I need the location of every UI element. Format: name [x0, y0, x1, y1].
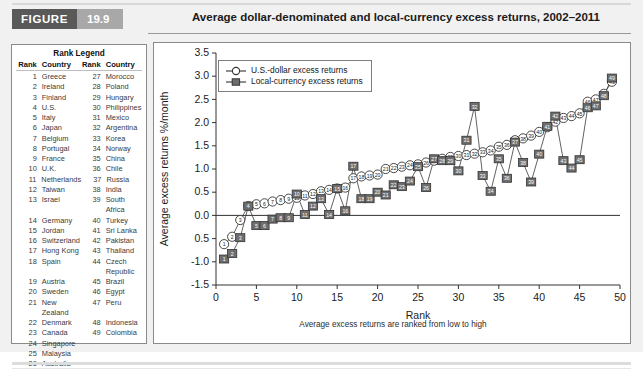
data-marker-rank-label: 34 [488, 148, 494, 154]
cell-rank2: 39 [80, 195, 101, 216]
x-tick-label: 25 [412, 291, 424, 303]
cell-country: Israel [37, 195, 80, 216]
chart-footnote: Average excess returns are ranked from l… [154, 320, 632, 329]
cell-rank: 16 [16, 236, 37, 246]
data-marker-rank-label: 13 [318, 188, 324, 194]
cell-country2: Argentina [101, 123, 142, 133]
cell-country2: Morocco [101, 72, 142, 82]
data-marker-rank-label: 3 [239, 235, 242, 241]
data-marker-rank-label: 44 [569, 165, 575, 171]
y-axis-title: Average excess returns %/month [158, 92, 170, 247]
data-marker-rank-label: 9 [287, 196, 290, 202]
data-marker-rank-label: 7 [271, 216, 274, 222]
cell-rank2: 44 [80, 257, 101, 278]
data-marker-rank-label: 34 [488, 188, 494, 194]
cell-country2: Egypt [101, 287, 142, 297]
data-marker-rank-label: 12 [310, 191, 316, 197]
cell-rank: 18 [16, 257, 37, 278]
cell-country2: Sri Lanka [101, 226, 142, 236]
rank-legend-row: 16Switzerland42Pakistan [16, 236, 142, 246]
cell-rank: 5 [16, 113, 37, 123]
x-tick-label: 20 [372, 291, 384, 303]
cell-rank2: 47 [80, 298, 101, 319]
header-country-1: Country [37, 60, 80, 69]
cell-country: Greece [37, 72, 80, 82]
cell-rank: 25 [16, 349, 37, 359]
cell-rank: 4 [16, 103, 37, 113]
data-marker-rank-label: 5 [255, 201, 258, 207]
rank-legend-row: 5Italy31Mexico [16, 113, 142, 123]
cell-rank: 7 [16, 134, 37, 144]
cell-country: Belgium [37, 134, 80, 144]
cell-country2: Thailand [101, 246, 142, 256]
rank-legend-rows: 1Greece27Morocco2Ireland28Poland3Finland… [16, 72, 142, 369]
chart-panel: -1.5-1.00.50.00.51.01.52.02.53.03.505101… [153, 42, 631, 344]
cell-rank2: 33 [80, 134, 101, 144]
cell-country2: Turkey [101, 216, 142, 226]
cell-rank: 13 [16, 195, 37, 216]
cell-country: Canada [37, 328, 80, 338]
data-marker-rank-label: 49 [609, 75, 615, 81]
data-marker-rank-label: 21 [383, 192, 389, 198]
series-legend: U.S.-dollar excess returns Local-currenc… [218, 60, 372, 92]
data-marker-rank-label: 17 [350, 163, 356, 169]
cell-rank2: 35 [80, 154, 101, 164]
data-marker-rank-label: 1 [223, 256, 226, 262]
cell-country2: Korea [101, 134, 142, 144]
data-marker-rank-label: 20 [375, 189, 381, 195]
rank-legend-row: 20Sweden46Egypt [16, 287, 142, 297]
data-marker-rank-label: 14 [326, 187, 332, 193]
data-marker-rank-label: 8 [279, 197, 282, 203]
cell-country2: Philippines [101, 103, 142, 113]
y-tick-label: 3.0 [194, 69, 209, 81]
data-marker-rank-label: 23 [399, 164, 405, 170]
data-marker-rank-label: 3 [239, 217, 242, 223]
data-marker-rank-label: 24 [407, 162, 413, 168]
y-tick-label: -1.0 [191, 255, 209, 267]
data-marker-rank-label: 14 [326, 212, 332, 218]
figure-badge-number: 19.9 [77, 9, 123, 29]
rank-legend-panel: Rank Legend Rank Country Rank Country 1G… [11, 44, 147, 344]
data-marker-rank-label: 27 [431, 156, 437, 162]
data-marker-rank-label: 4 [247, 203, 250, 209]
cell-rank2: 41 [80, 226, 101, 236]
cell-rank: 10 [16, 164, 37, 174]
data-marker-rank-label: 43 [561, 158, 567, 164]
data-marker-rank-label: 40 [536, 129, 542, 135]
cell-country2: Mexico [101, 113, 142, 123]
rank-legend-row: 7Belgium33Korea [16, 134, 142, 144]
cell-rank2: 40 [80, 216, 101, 226]
data-marker-rank-label: 32 [472, 151, 478, 157]
bottom-rule [12, 362, 631, 365]
data-marker-rank-label: 37 [512, 139, 518, 145]
cell-country: Taiwan [37, 185, 80, 195]
cell-country: New Zealand [37, 298, 80, 319]
data-marker-rank-label: 18 [359, 174, 365, 180]
cell-country: Ireland [37, 82, 80, 92]
y-tick-label: -1.5 [191, 278, 209, 290]
cell-rank2: 49 [80, 328, 101, 338]
rank-legend-header: Rank Country Rank Country [16, 60, 142, 71]
cell-rank: 12 [16, 185, 37, 195]
rank-legend-row: 3Finland29Hungary [16, 93, 142, 103]
data-marker-rank-label: 31 [464, 137, 470, 143]
data-marker-rank-label: 8 [279, 215, 282, 221]
data-marker-rank-label: 6 [263, 223, 266, 229]
cell-country2: Poland [101, 82, 142, 92]
data-marker-rank-label: 33 [480, 149, 486, 155]
rank-legend-row: 8Portugal34Norway [16, 144, 142, 154]
cell-rank2: 43 [80, 246, 101, 256]
rank-legend-row: 22Denmark48Indonesia [16, 318, 142, 328]
x-tick-label: 30 [453, 291, 465, 303]
cell-country: Netherlands [36, 175, 81, 185]
rank-legend-row: 21New Zealand47Peru [16, 298, 142, 319]
cell-rank2: 27 [80, 72, 101, 82]
cell-country: Austria [37, 277, 80, 287]
figure-title: Average dollar-denominated and local-cur… [186, 11, 606, 23]
cell-rank2: 30 [80, 103, 101, 113]
data-marker-rank-label: 30 [456, 168, 462, 174]
filled-square-marker-icon [225, 77, 247, 87]
data-marker-rank-label: 20 [375, 172, 381, 178]
x-tick-label: 40 [533, 291, 545, 303]
cell-country: Finland [37, 93, 80, 103]
